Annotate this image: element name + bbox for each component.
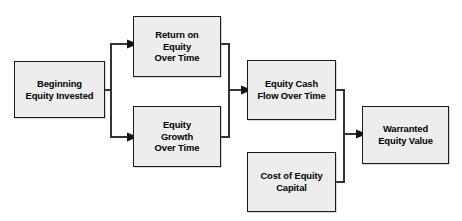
node-label: Cost of Equity Capital (260, 170, 322, 193)
node-return-on-equity-over-time[interactable]: Return on Equity Over Time (133, 16, 221, 77)
connector-return-on-equity-to-cash-flow (221, 44, 241, 90)
node-label: Equity Growth Over Time (155, 119, 200, 154)
node-beginning-equity-invested[interactable]: Beginning Equity Invested (14, 61, 105, 118)
node-label: Equity Cash Flow Over Time (257, 78, 325, 101)
node-label: Warranted Equity Value (378, 123, 433, 146)
node-equity-cash-flow-over-time[interactable]: Equity Cash Flow Over Time (247, 60, 336, 120)
node-warranted-equity-value[interactable]: Warranted Equity Value (362, 106, 449, 164)
connector-equity-growth-to-cash-flow (221, 90, 229, 137)
node-equity-growth-over-time[interactable]: Equity Growth Over Time (133, 106, 221, 167)
node-label: Return on Equity Over Time (155, 29, 200, 64)
connector-beginning-to-equity-growth (111, 90, 127, 137)
connector-cash-flow-to-warranted-value (336, 90, 356, 134)
connector-beginning-to-return-on-equity (105, 44, 127, 90)
connector-cost-of-equity-to-warranted-value (336, 134, 344, 182)
flow-diagram: Beginning Equity Invested Return on Equi… (0, 0, 462, 221)
node-label: Beginning Equity Invested (26, 78, 94, 101)
node-cost-of-equity-capital[interactable]: Cost of Equity Capital (247, 152, 336, 212)
